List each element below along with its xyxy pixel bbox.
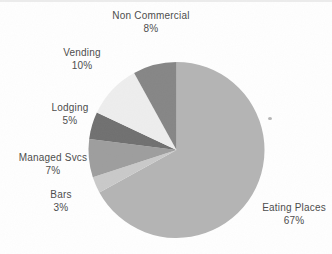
label-managed-svcs: Managed Svcs 7%: [19, 152, 88, 177]
slice-pct: 7%: [19, 165, 88, 178]
slice-label: Bars: [50, 189, 71, 202]
slice-label: Lodging: [52, 102, 89, 115]
slice-pct: 8%: [112, 23, 189, 36]
slice-pct: 67%: [262, 215, 326, 228]
slice-pct: 5%: [52, 115, 89, 128]
slice-label: Vending: [63, 47, 101, 60]
label-bars: Bars 3%: [50, 189, 71, 214]
slice-label: Managed Svcs: [19, 152, 88, 165]
label-lodging: Lodging 5%: [52, 102, 89, 127]
slice-label: Non Commercial: [112, 10, 189, 23]
pie-chart-figure: Non Commercial 8% Vending 10% Lodging 5%…: [0, 0, 332, 254]
slice-pct: 3%: [50, 202, 71, 215]
label-eating-places: Eating Places 67%: [262, 202, 326, 227]
label-vending: Vending 10%: [63, 47, 101, 72]
scan-streak: [0, 0, 332, 2]
label-non-commercial: Non Commercial 8%: [112, 10, 189, 35]
slice-label: Eating Places: [262, 202, 326, 215]
scan-speck: [268, 117, 272, 120]
slice-pct: 10%: [63, 60, 101, 73]
